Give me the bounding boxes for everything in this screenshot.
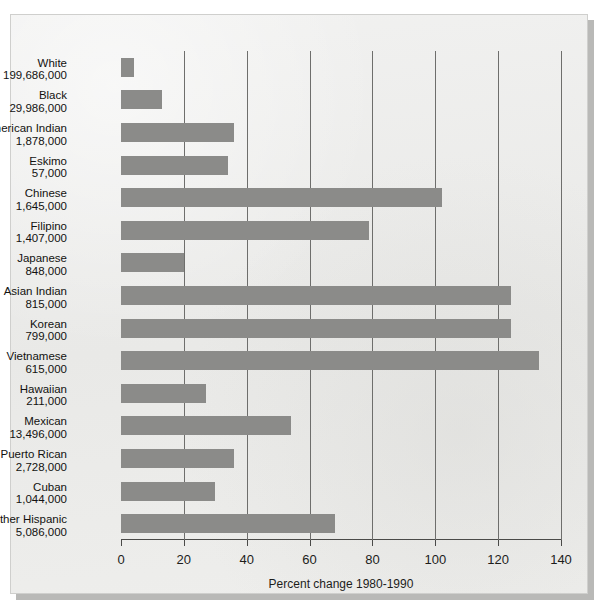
- category-population: 1,407,000: [16, 232, 67, 245]
- x-tick-60: [310, 540, 311, 546]
- category-population: 615,000: [6, 363, 67, 376]
- bar-korean: [121, 319, 511, 338]
- chart-plate: 020406080100120140White199,686,000Black2…: [10, 14, 588, 594]
- category-population: 2,728,000: [1, 461, 67, 474]
- bar-row: [121, 482, 561, 501]
- category-name: American Indian: [0, 122, 67, 135]
- category-label-mexican: Mexican13,496,000: [9, 415, 67, 440]
- x-tick-120: [498, 540, 499, 546]
- category-label-cuban: Cuban1,044,000: [16, 481, 67, 506]
- bar-row: [121, 253, 561, 272]
- bar-puerto-rican: [121, 449, 234, 468]
- category-population: 815,000: [4, 298, 67, 311]
- bar-chinese: [121, 188, 442, 207]
- bar-filipino: [121, 221, 369, 240]
- bar-row: [121, 58, 561, 77]
- category-name: Black: [9, 89, 67, 102]
- category-label-american-indian: American Indian1,878,000: [0, 122, 67, 147]
- category-name: Vietnamese: [6, 350, 67, 363]
- bar-black: [121, 90, 162, 109]
- x-tick-20: [184, 540, 185, 546]
- category-name: Eskimo: [29, 155, 67, 168]
- category-name: White: [3, 57, 67, 70]
- category-name: Japanese: [17, 252, 67, 265]
- x-tick-0: [121, 540, 122, 546]
- bar-cuban: [121, 482, 215, 501]
- category-population: 29,986,000: [9, 102, 67, 115]
- category-name: Cuban: [16, 481, 67, 494]
- bar-other-hispanic: [121, 514, 335, 533]
- x-tick-label-100: 100: [424, 552, 446, 567]
- bar-chart: 020406080100120140White199,686,000Black2…: [11, 15, 587, 593]
- bar-row: [121, 319, 561, 338]
- x-tick-label-40: 40: [239, 552, 253, 567]
- bar-white: [121, 58, 134, 77]
- category-population: 1,878,000: [0, 135, 67, 148]
- bar-row: [121, 449, 561, 468]
- bar-row: [121, 416, 561, 435]
- bar-hawaiian: [121, 384, 206, 403]
- category-population: 13,496,000: [9, 428, 67, 441]
- bar-row: [121, 286, 561, 305]
- category-label-eskimo: Eskimo57,000: [29, 155, 67, 180]
- bar-asian-indian: [121, 286, 511, 305]
- category-population: 199,686,000: [3, 69, 67, 82]
- x-tick-label-60: 60: [302, 552, 316, 567]
- category-label-asian-indian: Asian Indian815,000: [4, 285, 67, 310]
- category-label-vietnamese: Vietnamese615,000: [6, 350, 67, 375]
- x-tick-40: [247, 540, 248, 546]
- category-label-other-hispanic: Other Hispanic5,086,000: [0, 513, 67, 538]
- bar-row: [121, 514, 561, 533]
- category-name: Other Hispanic: [0, 513, 67, 526]
- x-tick-80: [372, 540, 373, 546]
- category-population: 211,000: [20, 395, 67, 408]
- x-tick-label-140: 140: [550, 552, 572, 567]
- bar-eskimo: [121, 156, 228, 175]
- category-name: Asian Indian: [4, 285, 67, 298]
- x-axis-title: Percent change 1980-1990: [121, 577, 561, 591]
- bar-mexican: [121, 416, 291, 435]
- x-axis-line: [121, 539, 561, 540]
- category-label-hawaiian: Hawaiian211,000: [20, 383, 67, 408]
- x-tick-label-20: 20: [177, 552, 191, 567]
- category-name: Chinese: [16, 187, 67, 200]
- x-tick-label-0: 0: [117, 552, 124, 567]
- category-population: 57,000: [29, 167, 67, 180]
- category-population: 5,086,000: [0, 526, 67, 539]
- category-label-puerto-rican: Puerto Rican2,728,000: [1, 448, 67, 473]
- category-name: Mexican: [9, 415, 67, 428]
- category-population: 1,044,000: [16, 493, 67, 506]
- category-name: Hawaiian: [20, 383, 67, 396]
- bar-row: [121, 90, 561, 109]
- x-tick-label-80: 80: [365, 552, 379, 567]
- x-tick-100: [435, 540, 436, 546]
- bar-vietnamese: [121, 351, 539, 370]
- category-population: 1,645,000: [16, 200, 67, 213]
- bar-row: [121, 384, 561, 403]
- category-label-filipino: Filipino1,407,000: [16, 220, 67, 245]
- gridline-140: [561, 51, 562, 540]
- bar-row: [121, 188, 561, 207]
- x-tick-label-120: 120: [487, 552, 509, 567]
- x-tick-140: [561, 540, 562, 546]
- bar-row: [121, 123, 561, 142]
- category-name: Filipino: [16, 220, 67, 233]
- category-name: Puerto Rican: [1, 448, 67, 461]
- bar-row: [121, 156, 561, 175]
- category-label-black: Black29,986,000: [9, 89, 67, 114]
- category-label-white: White199,686,000: [3, 57, 67, 82]
- category-population: 799,000: [25, 330, 67, 343]
- bar-japanese: [121, 253, 184, 272]
- category-label-chinese: Chinese1,645,000: [16, 187, 67, 212]
- category-name: Korean: [25, 318, 67, 331]
- plot-area: 020406080100120140White199,686,000Black2…: [121, 51, 561, 540]
- bar-american-indian: [121, 123, 234, 142]
- category-label-japanese: Japanese848,000: [17, 252, 67, 277]
- category-label-korean: Korean799,000: [25, 318, 67, 343]
- chart-page: 020406080100120140White199,686,000Black2…: [0, 0, 603, 614]
- bar-row: [121, 351, 561, 370]
- category-population: 848,000: [17, 265, 67, 278]
- bar-row: [121, 221, 561, 240]
